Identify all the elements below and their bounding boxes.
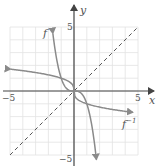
- f-inverse-label: f−1: [121, 117, 136, 131]
- y-max-tick-label: 5: [67, 22, 73, 32]
- x-axis-label: x: [149, 94, 156, 107]
- f-label: f: [42, 27, 49, 40]
- y-axis-label: y: [79, 4, 87, 17]
- x-max-tick-label: 5: [135, 93, 141, 103]
- function-inverse-graph: −5 5 5 −5 x y f f−1: [0, 0, 157, 168]
- y-min-tick-label: −5: [59, 154, 73, 164]
- x-min-tick-label: −5: [2, 93, 16, 103]
